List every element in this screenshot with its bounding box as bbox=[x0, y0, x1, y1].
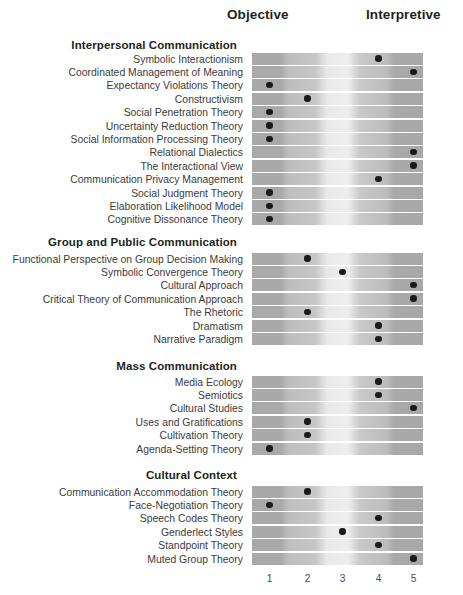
table-row[interactable]: Cultivation Theory bbox=[0, 429, 463, 442]
scale-track bbox=[252, 553, 423, 565]
scale-track bbox=[252, 253, 423, 265]
table-row[interactable]: Expectancy Violations Theory bbox=[0, 79, 463, 92]
scale-track bbox=[252, 173, 423, 185]
theory-label: Coordinated Management of Meaning bbox=[0, 66, 243, 79]
scale-track bbox=[252, 306, 423, 318]
table-row[interactable]: Social Information Processing Theory bbox=[0, 133, 463, 146]
section-title: Group and Public Communication bbox=[0, 236, 237, 248]
table-row[interactable]: Communication Accommodation Theory bbox=[0, 486, 463, 499]
theory-label: Cultivation Theory bbox=[0, 429, 243, 442]
table-row[interactable]: The Interactional View bbox=[0, 160, 463, 173]
scale-track bbox=[252, 429, 423, 441]
theory-label: Uncertainty Reduction Theory bbox=[0, 120, 243, 133]
scale-marker-dot bbox=[339, 269, 345, 275]
scale-tick-4: 4 bbox=[369, 573, 389, 584]
theory-label: Narrative Paradigm bbox=[0, 333, 243, 346]
scale-track bbox=[252, 106, 423, 118]
theory-label: Constructivism bbox=[0, 93, 243, 106]
scale-track bbox=[252, 93, 423, 105]
scale-marker-dot bbox=[375, 378, 381, 384]
theory-label: Symbolic Interactionism bbox=[0, 53, 243, 66]
table-row[interactable]: Cognitive Dissonance Theory bbox=[0, 213, 463, 226]
theory-label: Symbolic Convergence Theory bbox=[0, 266, 243, 279]
table-row[interactable]: Cultural Studies bbox=[0, 402, 463, 415]
scale-track bbox=[252, 53, 423, 65]
table-row[interactable]: Agenda-Setting Theory bbox=[0, 443, 463, 456]
table-row[interactable]: Face-Negotiation Theory bbox=[0, 499, 463, 512]
table-row[interactable]: Narrative Paradigm bbox=[0, 333, 463, 346]
table-row[interactable]: Relational Dialectics bbox=[0, 146, 463, 159]
table-row[interactable]: Muted Group Theory bbox=[0, 553, 463, 566]
table-row[interactable]: Uses and Gratifications bbox=[0, 416, 463, 429]
table-row[interactable]: Social Judgment Theory bbox=[0, 187, 463, 200]
table-row[interactable]: Symbolic Convergence Theory bbox=[0, 266, 463, 279]
table-row[interactable]: Functional Perspective on Group Decision… bbox=[0, 253, 463, 266]
theory-label: Expectancy Violations Theory bbox=[0, 79, 243, 92]
scale-marker-dot bbox=[339, 528, 345, 534]
scale-marker-dot bbox=[266, 502, 272, 508]
scale-marker-dot bbox=[304, 418, 310, 424]
theory-label: Cultural Studies bbox=[0, 402, 243, 415]
theory-label: Face-Negotiation Theory bbox=[0, 499, 243, 512]
scale-marker-dot bbox=[304, 95, 310, 101]
theory-label: Critical Theory of Communication Approac… bbox=[0, 293, 243, 306]
scale-marker-dot bbox=[375, 542, 381, 548]
scale-marker-dot bbox=[266, 109, 272, 115]
scale-marker-dot bbox=[410, 295, 416, 301]
scale-track bbox=[252, 499, 423, 511]
table-row[interactable]: The Rhetoric bbox=[0, 306, 463, 319]
scale-track bbox=[252, 66, 423, 78]
scale-marker-dot bbox=[410, 555, 416, 561]
scale-marker-dot bbox=[266, 445, 272, 451]
scale-track bbox=[252, 266, 423, 278]
scale-track bbox=[252, 333, 423, 345]
table-row[interactable]: Semiotics bbox=[0, 389, 463, 402]
scale-marker-dot bbox=[304, 488, 310, 494]
scale-marker-dot bbox=[410, 149, 416, 155]
table-row[interactable]: Social Penetration Theory bbox=[0, 106, 463, 119]
table-row[interactable]: Dramatism bbox=[0, 320, 463, 333]
table-row[interactable]: Coordinated Management of Meaning bbox=[0, 66, 463, 79]
theory-label: Social Penetration Theory bbox=[0, 106, 243, 119]
scale-marker-dot bbox=[410, 162, 416, 168]
theory-label: Agenda-Setting Theory bbox=[0, 443, 243, 456]
table-row[interactable]: Uncertainty Reduction Theory bbox=[0, 120, 463, 133]
table-row[interactable]: Media Ecology bbox=[0, 376, 463, 389]
scale-marker-dot bbox=[375, 515, 381, 521]
table-row[interactable]: Critical Theory of Communication Approac… bbox=[0, 293, 463, 306]
scale-track bbox=[252, 376, 423, 388]
section-title: Mass Communication bbox=[0, 360, 237, 372]
table-row[interactable]: Genderlect Styles bbox=[0, 526, 463, 539]
scale-marker-dot bbox=[266, 203, 272, 209]
theory-label: Dramatism bbox=[0, 320, 243, 333]
table-row[interactable]: Cultural Approach bbox=[0, 279, 463, 292]
table-row[interactable]: Elaboration Likelihood Model bbox=[0, 200, 463, 213]
scale-tick-5: 5 bbox=[404, 573, 424, 584]
theory-label: Communication Privacy Management bbox=[0, 173, 243, 186]
scale-track bbox=[252, 539, 423, 551]
scale-marker-dot bbox=[410, 282, 416, 288]
scale-tick-2: 2 bbox=[298, 573, 318, 584]
theory-label: Speech Codes Theory bbox=[0, 512, 243, 525]
scale-marker-dot bbox=[304, 255, 310, 261]
scale-track bbox=[252, 279, 423, 291]
theory-placement-chart: Interpersonal CommunicationSymbolic Inte… bbox=[0, 0, 463, 595]
scale-track bbox=[252, 443, 423, 455]
theory-label: The Rhetoric bbox=[0, 306, 243, 319]
scale-track bbox=[252, 416, 423, 428]
scale-track bbox=[252, 320, 423, 332]
scale-track bbox=[252, 133, 423, 145]
theory-label: Elaboration Likelihood Model bbox=[0, 200, 243, 213]
table-row[interactable]: Communication Privacy Management bbox=[0, 173, 463, 186]
scale-track bbox=[252, 293, 423, 305]
theory-label: Muted Group Theory bbox=[0, 553, 243, 566]
theory-label: Cultural Approach bbox=[0, 279, 243, 292]
table-row[interactable]: Standpoint Theory bbox=[0, 539, 463, 552]
scale-marker-dot bbox=[375, 336, 381, 342]
table-row[interactable]: Constructivism bbox=[0, 93, 463, 106]
table-row[interactable]: Speech Codes Theory bbox=[0, 512, 463, 525]
table-row[interactable]: Symbolic Interactionism bbox=[0, 53, 463, 66]
scale-marker-dot bbox=[375, 55, 381, 61]
theory-label: The Interactional View bbox=[0, 160, 243, 173]
theory-label: Functional Perspective on Group Decision… bbox=[0, 253, 243, 266]
